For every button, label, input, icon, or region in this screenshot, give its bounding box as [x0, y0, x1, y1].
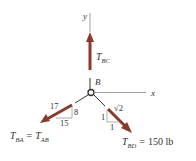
- x-axis-label: x: [150, 88, 155, 98]
- slope-ba-hypotenuse: 17: [50, 101, 59, 111]
- force-bc-arrowhead: [86, 32, 94, 42]
- slope-bd-hypotenuse: √2: [114, 103, 123, 113]
- member-ba: [75, 95, 88, 103]
- pin-joint: [88, 90, 94, 96]
- slope-ba-vertical: 8: [74, 107, 78, 117]
- free-body-diagram: y TBC B x 17 8 15 TBA=TAB √2 1 1 TBD=150…: [0, 0, 196, 161]
- force-ba-label: TBA=TAB: [10, 130, 49, 143]
- y-axis-label: y: [82, 11, 87, 21]
- member-bd: [94, 95, 105, 106]
- slope-ba-horizontal: 15: [60, 118, 69, 128]
- force-bc-label: TBC: [96, 51, 111, 64]
- point-b-label: B: [95, 77, 101, 87]
- slope-bd-horizontal: 1: [110, 122, 114, 132]
- force-ba-arrowhead: [40, 114, 50, 123]
- force-bd-label: TBD=150 lb: [122, 136, 173, 149]
- slope-bd-vertical: 1: [101, 112, 105, 122]
